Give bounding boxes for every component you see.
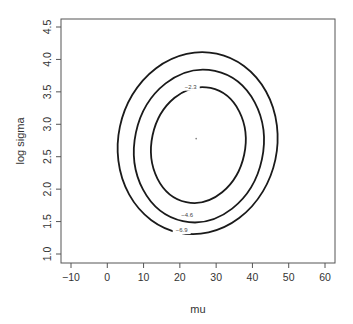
y-tick-label: 4.0 [41, 52, 53, 67]
x-tick-label: 50 [283, 271, 295, 283]
y-tick-label: 1.0 [41, 247, 53, 262]
maximum-point [195, 138, 197, 140]
x-axis-label: mu [190, 303, 205, 315]
y-tick-label: 2.0 [41, 182, 53, 197]
contour-chart: −2.3−4.6−6.9 −100102030405060 1.01.52.02… [0, 0, 353, 324]
x-tick-label: −10 [62, 271, 80, 283]
contour-label: −4.6 [181, 212, 194, 218]
y-axis-label: log sigma [14, 117, 26, 165]
x-tick-label: 60 [319, 271, 331, 283]
contour-label: −6.9 [176, 227, 189, 233]
x-tick-label: 30 [210, 271, 222, 283]
x-tick-label: 40 [247, 271, 259, 283]
x-tick-label: 20 [174, 271, 186, 283]
y-tick-label: 2.5 [41, 149, 53, 164]
y-tick-label: 4.5 [41, 20, 53, 35]
x-tick-label: 0 [104, 271, 110, 283]
contour-label: −2.3 [185, 84, 198, 90]
y-tick-label: 3.0 [41, 117, 53, 132]
y-tick-label: 1.5 [41, 214, 53, 229]
x-tick-label: 10 [138, 271, 150, 283]
y-tick-label: 3.5 [41, 84, 53, 99]
